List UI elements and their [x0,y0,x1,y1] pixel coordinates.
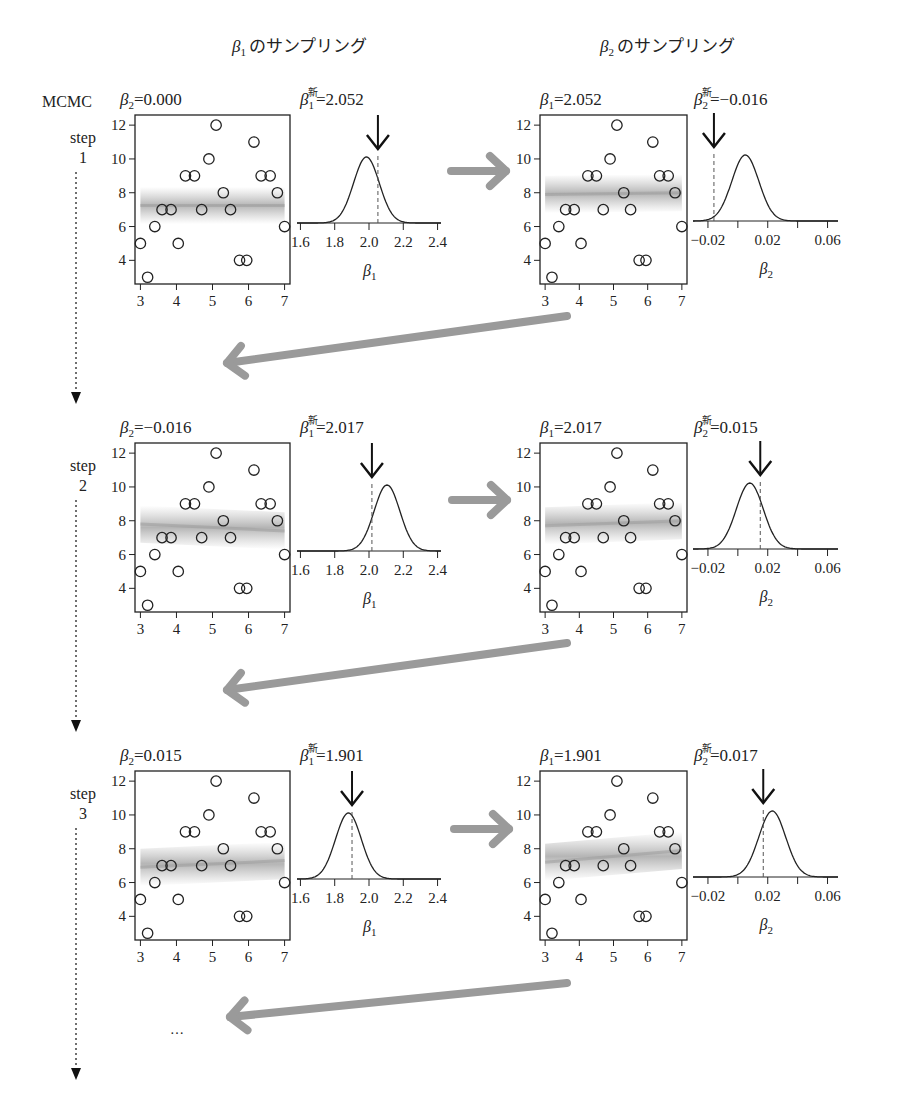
density-tick-label: 0.02 [755,560,781,576]
y-tick-label: 10 [516,807,531,823]
x-tick-label: 4 [173,293,181,309]
x-tick-label: 3 [541,293,549,309]
arrow-shaft [227,316,567,363]
right-arrow-icon [454,814,509,844]
data-point [211,776,221,786]
data-point [648,793,658,803]
data-point [211,120,221,130]
data-point [249,793,259,803]
y-tick-label: 10 [516,151,531,167]
step-label: step [70,457,96,475]
y-tick-label: 10 [516,479,531,495]
data-point [547,272,557,282]
y-tick-label: 12 [516,773,531,789]
data-point [135,894,145,904]
x-tick-label: 4 [173,621,181,637]
density-tick-label: 1.8 [325,562,344,578]
step-label: step [70,129,96,147]
mcmc-gibbs-sampling-diagram: β1のサンプリング β2のサンプリング MCMC step1β2=0.000β新… [0,0,898,1093]
y-tick-label: 8 [524,841,532,857]
step-label: step [70,785,96,803]
mcmc-step-3: step3β2=0.015β新1=1.9013456746810121.61.8… [70,742,841,965]
density-tick-label: 2.2 [394,890,413,906]
step-flow-arrow [71,828,81,1080]
x-tick-label: 5 [610,293,618,309]
down-triangle-icon [71,1068,81,1080]
density-tick-label: 0.02 [755,888,781,904]
y-tick-label: 12 [111,445,126,461]
y-tick-label: 6 [524,875,532,891]
data-point [648,137,658,147]
x-tick-label: 7 [281,949,289,965]
y-tick-label: 6 [524,219,532,235]
density-tick-label: 1.8 [325,234,344,250]
density-x-label: β1 [362,590,376,610]
continuation-ellipsis: … [170,1022,184,1037]
step-flow-arrow [71,500,81,732]
density-tick-label: 2.2 [394,234,413,250]
x-tick-label: 4 [576,621,584,637]
x-tick-label: 5 [209,949,217,965]
data-point [605,154,615,164]
data-point [648,465,658,475]
steps-layer: step1β2=0.000β新1=2.0523456746810121.61.8… [70,86,841,965]
posterior-density-curve [693,155,838,221]
fixed-beta1-label: β1=2.052 [539,90,602,111]
new-beta1-label: β新1=2.017 [299,414,364,439]
y-tick-label: 6 [119,875,127,891]
density-x-label: β2 [759,260,773,280]
column-header-beta1-sampling: β1のサンプリング [231,37,367,58]
y-tick-label: 8 [119,513,127,529]
density-tick-label: 0.02 [755,232,781,248]
data-point [204,810,214,820]
return-arrow-icon [227,316,567,376]
data-point [204,482,214,492]
y-tick-label: 4 [119,580,127,596]
x-tick-label: 4 [173,949,181,965]
new-beta1-label: β新1=1.901 [299,742,364,767]
data-point [547,600,557,610]
data-point [641,255,651,265]
flow-layer [71,156,567,1080]
density-tick-label: −0.02 [691,560,726,576]
data-point [135,238,145,248]
data-point [612,776,622,786]
density-tick-label: 1.8 [325,890,344,906]
density-tick-label: 1.6 [291,562,310,578]
data-point [150,549,160,559]
right-arrow-icon [451,156,506,186]
data-point [242,911,252,921]
y-tick-label: 8 [524,513,532,529]
beta1-sampling-panel: β2=−0.016β新1=2.0173456746810121.61.82.02… [111,414,447,637]
data-point [142,928,152,938]
density-tick-label: 2.4 [428,890,447,906]
posterior-density-curve [297,157,441,223]
density-tick-label: 1.6 [291,234,310,250]
y-tick-label: 8 [524,185,532,201]
y-tick-label: 12 [111,117,126,133]
data-point [242,255,252,265]
x-tick-label: 4 [576,949,584,965]
density-tick-label: 2.4 [428,234,447,250]
x-tick-label: 3 [137,949,145,965]
step-flow-arrow [71,172,81,404]
arrow-shaft [227,643,567,690]
data-point [612,120,622,130]
data-point [641,911,651,921]
data-point [142,272,152,282]
data-point [249,137,259,147]
regression-band [140,842,284,886]
x-tick-label: 3 [137,293,145,309]
beta1-sampling-panel: β2=0.015β新1=1.9013456746810121.61.82.02.… [111,742,447,965]
step-number: 2 [79,477,87,494]
x-tick-label: 7 [281,621,289,637]
return-arrow-icon [230,983,567,1030]
density-tick-label: 0.06 [814,232,841,248]
new-beta2-label: β新2=0.015 [693,414,758,439]
posterior-density-curve [693,811,838,877]
data-point [540,238,550,248]
new-beta1-label: β新1=2.052 [299,86,364,111]
x-tick-label: 6 [644,621,652,637]
data-point [677,549,687,559]
fixed-beta2-label: β2=−0.016 [119,418,191,439]
